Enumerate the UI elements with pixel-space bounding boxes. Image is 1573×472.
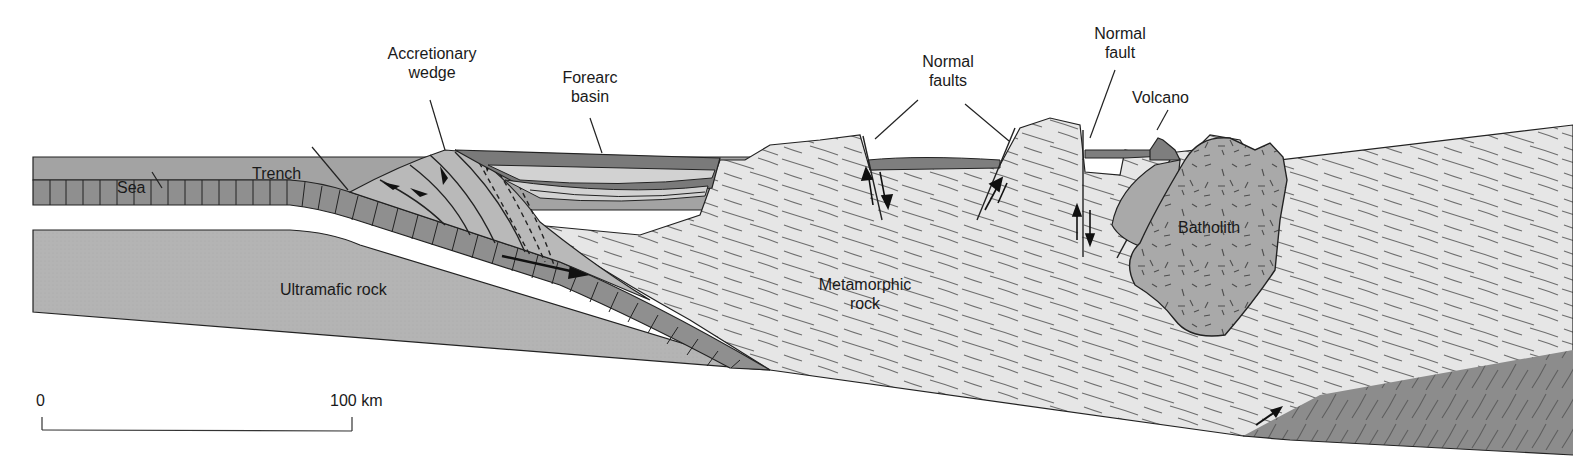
- label-metamorphic-rock-line1: Metamorphic: [810, 275, 920, 294]
- label-sea: Sea: [117, 178, 145, 197]
- label-normal-faults-line2: faults: [908, 71, 988, 90]
- label-batholith: Batholith: [1178, 218, 1240, 237]
- label-accretionary-wedge-line1: Accretionary: [368, 44, 496, 63]
- label-accretionary-wedge-line2: wedge: [368, 63, 496, 82]
- cross-section-svg: [0, 0, 1573, 472]
- cross-section-figure: Sea Trench Accretionary wedge Forearc ba…: [0, 0, 1573, 472]
- label-trench: Trench: [252, 164, 301, 183]
- label-forearc-basin: Forearc basin: [550, 68, 630, 106]
- scale-bar-end-label: 100 km: [330, 392, 382, 410]
- label-forearc-basin-line1: Forearc: [550, 68, 630, 87]
- label-normal-fault-line1: Normal: [1080, 24, 1160, 43]
- label-normal-fault: Normal fault: [1080, 24, 1160, 62]
- label-normal-fault-line2: fault: [1080, 43, 1160, 62]
- label-normal-faults: Normal faults: [908, 52, 988, 90]
- label-ultramafic-rock: Ultramafic rock: [280, 280, 387, 299]
- label-forearc-basin-line2: basin: [550, 87, 630, 106]
- rift-basin-fill: [868, 158, 1000, 171]
- label-metamorphic-rock: Metamorphic rock: [810, 275, 920, 313]
- volcano: [1150, 138, 1180, 160]
- scale-bar-start-label: 0: [36, 392, 45, 410]
- label-accretionary-wedge: Accretionary wedge: [368, 44, 496, 82]
- scale-bar: [42, 417, 352, 431]
- label-volcano: Volcano: [1132, 88, 1189, 107]
- label-normal-faults-line1: Normal: [908, 52, 988, 71]
- label-metamorphic-rock-line2: rock: [810, 294, 920, 313]
